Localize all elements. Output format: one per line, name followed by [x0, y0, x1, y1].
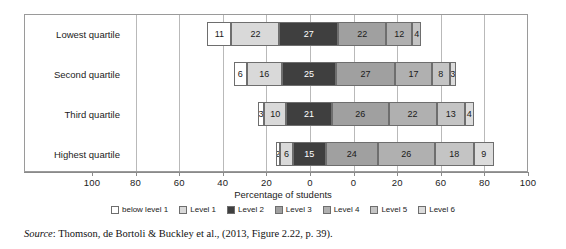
bar-segment: 6 [280, 142, 293, 166]
bar-segment: 22 [231, 22, 279, 46]
x-axis-tick [310, 172, 311, 176]
bar-segment: 10 [264, 102, 286, 126]
bar-segment: 13 [437, 102, 465, 126]
legend-label: below level 1 [122, 205, 168, 214]
x-axis-tick-label: 100 [520, 177, 536, 188]
legend-swatch-icon [111, 206, 119, 214]
x-axis-tick-label: 0 [351, 177, 356, 188]
segment-value-label: 27 [304, 30, 314, 39]
legend-item[interactable]: Level 1 [179, 205, 216, 214]
bar-segment: 17 [395, 62, 432, 86]
x-axis-line [24, 172, 528, 173]
bar-segment: 22 [389, 102, 437, 126]
segment-value-label: 12 [394, 30, 404, 39]
bar-segment: 24 [326, 142, 378, 166]
segment-value-label: 24 [347, 150, 357, 159]
x-axis-tick [266, 172, 267, 176]
x-axis-tick [528, 172, 529, 176]
segment-value-label: 4 [467, 110, 472, 119]
bar-segment: 9 [474, 142, 494, 166]
segment-value-label: 3 [450, 70, 455, 79]
x-axis-tick-label: 100 [84, 177, 100, 188]
legend-label: Level 5 [381, 205, 407, 214]
legend-swatch-icon [227, 206, 235, 214]
x-axis-tick-label: 80 [130, 177, 141, 188]
segment-value-label: 10 [270, 110, 280, 119]
x-axis-tick [223, 172, 224, 176]
segment-value-label: 26 [401, 150, 411, 159]
segment-value-label: 13 [446, 110, 456, 119]
x-axis-tick-label: 20 [392, 177, 403, 188]
legend-item[interactable]: Level 6 [418, 205, 455, 214]
segment-value-label: 6 [238, 70, 243, 79]
x-axis-tick [441, 172, 442, 176]
bar-segment: 6 [234, 62, 247, 86]
x-axis-tick [136, 172, 137, 176]
x-axis-tick-label: 80 [479, 177, 490, 188]
x-axis-tick [179, 172, 180, 176]
bar-segment: 11 [207, 22, 231, 46]
segment-value-label: 9 [481, 150, 486, 159]
bar-segment: 3 [258, 102, 265, 126]
bar-row: 61625271783 [0, 62, 566, 86]
segment-value-label: 22 [250, 30, 260, 39]
x-axis-tick [92, 172, 93, 176]
segment-value-label: 16 [259, 70, 269, 79]
figure-stacked-bar-chart: 1008060402000206080100 Percentage of stu… [0, 0, 566, 249]
segment-value-label: 6 [284, 150, 289, 159]
bar-segment: 22 [338, 22, 386, 46]
bar-segment: 12 [386, 22, 412, 46]
legend-swatch-icon [323, 206, 331, 214]
bar-segment: 25 [282, 62, 337, 86]
segment-value-label: 21 [304, 110, 314, 119]
source-prefix: Source [24, 228, 53, 239]
segment-value-label: 4 [414, 30, 419, 39]
legend-label: Level 3 [286, 205, 312, 214]
legend-swatch-icon [275, 206, 283, 214]
segment-value-label: 8 [438, 70, 443, 79]
bar-segment: 3 [450, 62, 457, 86]
x-axis-tick-label: 60 [435, 177, 446, 188]
x-axis-tick-label: 60 [174, 177, 185, 188]
bar-row: 310212622134 [0, 102, 566, 126]
x-axis-tick [397, 172, 398, 176]
legend-item[interactable]: Level 4 [323, 205, 360, 214]
segment-value-label: 25 [304, 70, 314, 79]
legend-label: Level 2 [238, 205, 264, 214]
legend-item[interactable]: Level 5 [370, 205, 407, 214]
legend-item[interactable]: Level 3 [275, 205, 312, 214]
legend-item[interactable]: below level 1 [111, 205, 168, 214]
source-note: Source: Thomson, de Bortoli & Buckley et… [24, 228, 333, 239]
legend-swatch-icon [179, 206, 187, 214]
segment-value-label: 27 [361, 70, 371, 79]
segment-value-label: 17 [409, 70, 419, 79]
segment-value-label: 22 [357, 30, 367, 39]
legend-label: Level 1 [190, 205, 216, 214]
bar-row: 26152426189 [0, 142, 566, 166]
bar-segment: 15 [293, 142, 326, 166]
segment-value-label: 15 [304, 150, 314, 159]
bar-segment: 4 [465, 102, 474, 126]
x-axis-tick [484, 172, 485, 176]
segment-value-label: 18 [449, 150, 459, 159]
x-axis-tick-label: 40 [217, 177, 228, 188]
bar-segment: 18 [435, 142, 474, 166]
x-axis-tick [354, 172, 355, 176]
bar-segment: 21 [286, 102, 332, 126]
x-axis-tick-label: 0 [307, 177, 312, 188]
segment-value-label: 26 [355, 110, 365, 119]
x-axis-tick-label: 20 [261, 177, 272, 188]
bar-segment: 27 [336, 62, 395, 86]
legend-label: Level 4 [334, 205, 360, 214]
bar-segment: 26 [332, 102, 389, 126]
legend-label: Level 6 [429, 205, 455, 214]
segment-value-label: 11 [215, 30, 224, 39]
legend-item[interactable]: Level 2 [227, 205, 264, 214]
legend-swatch-icon [418, 206, 426, 214]
bar-segment: 8 [432, 62, 449, 86]
bar-segment: 16 [247, 62, 282, 86]
x-axis-title: Percentage of students [0, 189, 566, 200]
segment-value-label: 22 [408, 110, 418, 119]
bar-segment: 26 [378, 142, 435, 166]
chart-legend: below level 1Level 1Level 2Level 3Level … [0, 205, 566, 214]
